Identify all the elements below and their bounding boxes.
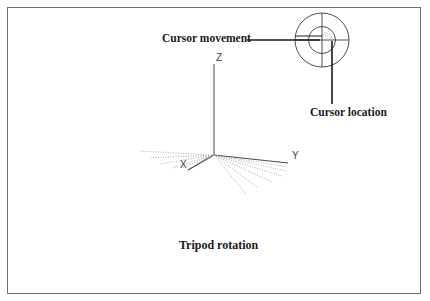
- cursor-movement-label: Cursor movement: [162, 32, 251, 44]
- diagram-artwork: [0, 0, 430, 301]
- z-axis-label: Z: [216, 52, 222, 63]
- cursor-location-label: Cursor location: [310, 106, 387, 118]
- 3d-axis-tripod-icon: [140, 64, 288, 194]
- x-axis-label: X: [180, 159, 187, 170]
- y-axis-label: Y: [292, 150, 299, 161]
- diagram-caption: Tripod rotation: [179, 238, 258, 253]
